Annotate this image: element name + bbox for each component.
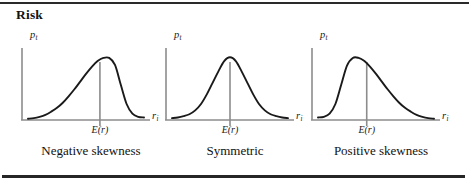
- y-axis-subscript: t: [326, 34, 328, 42]
- risk-skewness-figure: Risk pt ri E(r) Negative skewness: [0, 0, 469, 185]
- x-axis-label-symmetric: ri: [296, 111, 302, 122]
- panel-positive-skewness: pt ri E(r) Positive skewness: [306, 26, 456, 176]
- panel-negative-skewness: pt ri E(r) Negative skewness: [16, 26, 166, 176]
- y-axis-symbol: p: [30, 29, 35, 40]
- mean-label-positive-skewness: E(r): [358, 124, 375, 135]
- chart-svg-positive-skewness: [306, 26, 456, 144]
- panel-caption-positive-skewness: Positive skewness: [306, 143, 456, 159]
- y-axis-symbol: p: [174, 29, 179, 40]
- x-axis-label-negative-skewness: ri: [152, 111, 158, 122]
- panel-caption-symmetric: Symmetric: [160, 143, 310, 159]
- top-divider: [0, 2, 469, 4]
- y-axis-label-positive-skewness: pt: [320, 30, 327, 41]
- panel-symmetric: pt ri E(r) Symmetric: [160, 26, 310, 176]
- y-axis-label-symmetric: pt: [174, 30, 181, 41]
- density-curve: [28, 57, 144, 118]
- y-axis-label-negative-skewness: pt: [30, 30, 37, 41]
- density-curve: [318, 57, 434, 119]
- y-axis-subscript: t: [180, 34, 182, 42]
- mean-label-negative-skewness: E(r): [92, 124, 109, 135]
- figure-title: Risk: [16, 7, 43, 23]
- panel-caption-negative-skewness: Negative skewness: [16, 143, 166, 159]
- plot-area-positive-skewness: [306, 26, 456, 144]
- x-axis-label-positive-skewness: ri: [442, 111, 448, 122]
- y-axis-symbol: p: [320, 29, 325, 40]
- y-axis-subscript: t: [36, 34, 38, 42]
- bottom-divider: [2, 175, 465, 178]
- mean-label-symmetric: E(r): [222, 124, 239, 135]
